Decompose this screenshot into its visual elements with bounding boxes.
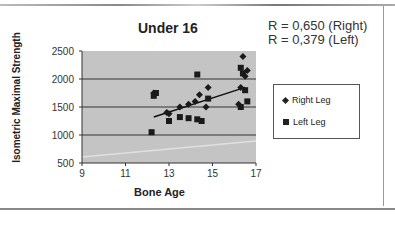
svg-text:17: 17 — [250, 168, 262, 179]
square-icon — [283, 119, 289, 125]
svg-text:2500: 2500 — [52, 46, 75, 57]
legend-item-left: Left Leg — [283, 117, 326, 127]
svg-text:15: 15 — [207, 168, 219, 179]
svg-text:9: 9 — [79, 168, 85, 179]
legend: Right Leg Left Leg — [273, 84, 360, 139]
legend-item-right: Right Leg — [283, 95, 331, 105]
svg-text:1500: 1500 — [52, 102, 75, 113]
svg-text:13: 13 — [163, 168, 175, 179]
svg-text:2000: 2000 — [52, 74, 75, 85]
diamond-icon — [282, 96, 289, 103]
svg-text:500: 500 — [57, 158, 74, 169]
svg-text:1000: 1000 — [52, 130, 75, 141]
svg-text:11: 11 — [120, 168, 131, 179]
